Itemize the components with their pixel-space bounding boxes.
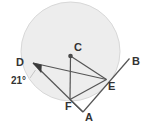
geometry-figure: A B C D E F 21° (0, 0, 149, 126)
segment-F-A (70, 100, 83, 113)
point-label-D: D (16, 56, 24, 68)
point-label-A: A (85, 111, 93, 123)
geometry-canvas: A B C D E F 21° (0, 0, 149, 126)
point-label-F: F (65, 100, 72, 112)
point-label-B: B (132, 55, 140, 67)
point-label-E: E (108, 80, 115, 92)
angle-measure-label: 21° (11, 75, 26, 86)
center-point-dot (68, 54, 73, 59)
point-label-C: C (74, 41, 82, 53)
segment-C-F (70, 56, 71, 100)
